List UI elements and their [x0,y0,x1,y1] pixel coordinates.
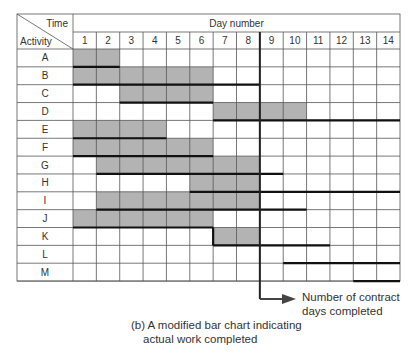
day-label: 12 [336,35,348,46]
activity-label: C [41,88,48,99]
actual-progress-G [96,156,260,174]
annotation-line-2: days completed [302,305,383,317]
day-label: 9 [269,35,275,46]
activity-label: H [41,177,48,188]
annotation-contract-days: Number of contract days completed [302,290,400,318]
actual-progress-H [190,174,260,192]
header-time-label: Time [46,18,68,29]
x-axis-title: Day number [209,18,264,29]
activity-label: D [41,106,48,117]
arrow-head-icon [282,294,296,304]
activity-label: M [41,267,49,278]
activity-label: K [42,231,49,242]
day-label: 2 [105,35,111,46]
day-label: 1 [82,35,88,46]
day-label: 8 [245,35,251,46]
day-label: 14 [383,35,395,46]
day-label: 13 [359,35,371,46]
activity-label: A [42,52,49,63]
actual-progress-I [96,192,260,210]
day-label: 4 [152,35,158,46]
day-label: 11 [313,35,324,46]
activity-label: F [42,142,48,153]
day-label: 10 [289,35,301,46]
activity-label: B [42,70,49,81]
day-label: 5 [175,35,181,46]
day-label: 7 [222,35,228,46]
day-label: 6 [199,35,205,46]
caption-line-1: (b) A modified bar chart indicating [131,319,302,331]
annotation-line-1: Number of contract [302,291,400,303]
activity-label: E [42,124,49,135]
activity-label: G [41,160,49,171]
caption-line-2: actual work completed [131,332,302,346]
activity-label: J [43,213,48,224]
day-label: 3 [129,35,135,46]
figure-caption: (b) A modified bar chart indicating actu… [131,318,302,346]
activity-label: L [42,249,48,260]
activity-label: I [44,195,47,206]
header-activity-label: Activity [20,36,52,47]
